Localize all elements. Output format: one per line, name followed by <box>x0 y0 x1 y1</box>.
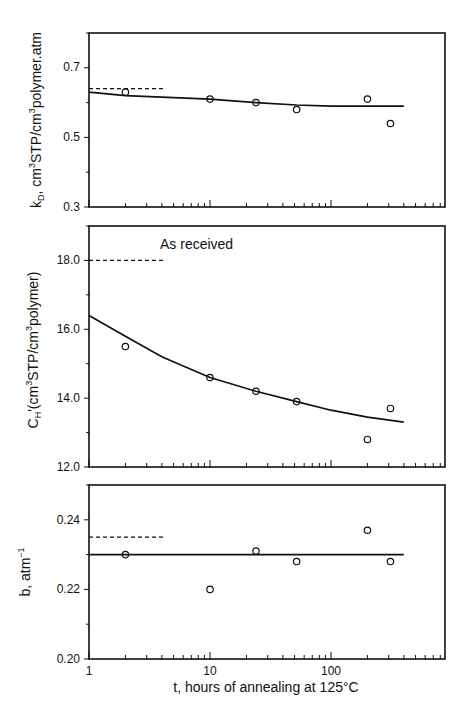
data-point <box>364 96 370 102</box>
fit-curve <box>89 92 404 106</box>
bottom-ytick-label: 0.22 <box>57 582 81 596</box>
top-ytick-label: 0.7 <box>63 60 80 74</box>
data-point <box>122 343 128 349</box>
middle-ytick-label: 16.0 <box>57 322 81 336</box>
xtick-label: 1 <box>86 664 93 678</box>
top-ytick-label: 0.3 <box>63 200 80 214</box>
bottom-y-axis-title: b, atm−1 <box>16 547 33 596</box>
xtick-label: 100 <box>321 664 341 678</box>
plot-content <box>89 89 404 593</box>
x-axis-title: t, hours of annealing at 125°C <box>173 679 358 695</box>
data-point <box>122 89 128 95</box>
top-ytick-label: 0.5 <box>63 130 80 144</box>
as-received-annotation: As received <box>160 236 233 252</box>
data-point <box>207 586 213 592</box>
data-point <box>364 436 370 442</box>
axis-ticks <box>84 33 440 659</box>
top-y-axis-title: kD, cm3STP/cm3polymer.atm <box>27 32 46 208</box>
data-point <box>253 548 259 554</box>
data-point <box>387 558 393 564</box>
fit-curve <box>89 316 404 423</box>
figure: 0.7 0.5 0.3 18.0 16.0 14.0 12.0 0.24 0.2… <box>0 0 462 706</box>
xtick-label: 10 <box>203 664 217 678</box>
data-point <box>293 106 299 112</box>
data-point <box>387 405 393 411</box>
data-point <box>293 558 299 564</box>
middle-ytick-label: 18.0 <box>57 253 81 267</box>
data-point <box>387 120 393 126</box>
bottom-panel-frame <box>89 485 445 659</box>
data-point <box>364 527 370 533</box>
bottom-ytick-label: 0.20 <box>57 652 81 666</box>
bottom-ytick-label: 0.24 <box>57 513 81 527</box>
middle-ytick-label: 12.0 <box>57 460 81 474</box>
middle-y-axis-title: CH'(cm3STP/cm3polymer) <box>24 272 43 429</box>
middle-ytick-label: 14.0 <box>57 391 81 405</box>
